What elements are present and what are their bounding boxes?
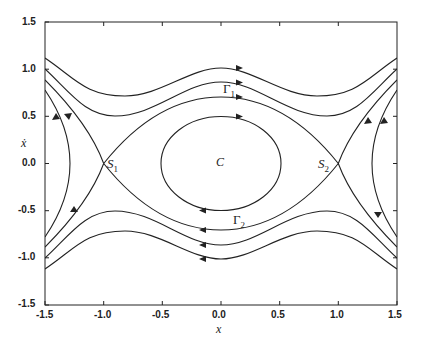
y-tick-label: 0.5	[22, 110, 36, 121]
saddle-s1-label: S1	[107, 156, 118, 174]
gamma1-label: Γ1	[223, 81, 235, 99]
x-tick-label: 0.5	[271, 309, 285, 320]
y-tick-label: 0.0	[22, 157, 36, 168]
y-tick-label: -1.0	[18, 251, 35, 262]
y-tick-label: 1.0	[22, 63, 36, 74]
x-axis-label: x	[216, 322, 221, 337]
y-tick-label: -0.5	[18, 204, 35, 215]
saddle-s2-label: S2	[318, 156, 329, 174]
x-tick-label: 0.0	[212, 309, 226, 320]
y-axis-label: ẋ	[21, 136, 26, 151]
lower-outer-trajectory	[45, 231, 397, 269]
x-tick-label: 1.0	[330, 309, 344, 320]
x-tick-label: 1.5	[388, 309, 402, 320]
upper-outer-trajectory	[45, 58, 397, 96]
gamma2-label: Γ2	[233, 212, 245, 230]
x-tick-label: -1.5	[36, 309, 53, 320]
y-tick-label: 1.5	[22, 16, 36, 27]
phase-portrait-plot	[0, 0, 423, 341]
x-tick-label: -0.5	[152, 309, 169, 320]
x-tick-label: -1.0	[94, 309, 111, 320]
center-label: C	[216, 155, 224, 170]
y-tick-label: -1.5	[18, 298, 35, 309]
